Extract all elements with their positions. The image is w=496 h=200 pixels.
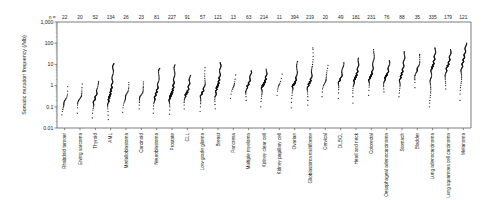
data-point [368,95,369,96]
data-point [383,88,384,89]
sample-size-label: 88 [399,15,405,20]
sample-size-label: 57 [200,15,206,20]
data-point [261,98,262,99]
data-point [97,85,98,86]
data-point [429,100,430,101]
data-point [313,56,314,57]
data-point [307,105,308,106]
sample-size-prefix: n = [49,15,56,20]
data-point [307,90,308,91]
data-point [234,81,235,82]
x-axis-category-label: Glioblastoma multiforme [308,133,313,184]
data-point [231,90,232,91]
data-point [326,76,327,77]
data-point [352,102,353,103]
data-point [153,103,154,104]
data-point [327,65,328,66]
x-axis-category-label: Head and neck [354,132,359,164]
data-point [292,92,293,93]
data-point [399,90,400,91]
data-point [61,114,62,115]
data-point [153,113,154,114]
data-point [383,83,384,84]
data-point [291,98,292,99]
sample-size-label: 20 [323,15,329,20]
data-point [108,119,109,120]
data-point [153,102,154,103]
data-point [460,83,461,84]
x-axis-category-label: Breast [216,132,221,146]
data-point [128,90,129,91]
data-point [214,104,215,105]
data-point [461,81,462,82]
data-point [369,86,370,87]
x-axis-category-label: Kidney clear cell [262,133,267,167]
data-point [184,105,185,106]
data-point [460,90,461,91]
data-point [82,83,83,84]
data-point [338,92,339,93]
x-axis-category-label: Bladder [415,133,420,150]
data-point [184,102,185,103]
data-point [67,86,68,87]
data-point [139,105,140,106]
data-point [77,103,78,104]
sample-size-label: 179 [444,15,452,20]
x-axis-category-label: Medulloblastoma [124,133,129,169]
data-point [327,68,328,69]
data-point [296,67,297,68]
data-point [312,49,313,50]
x-axis-category-label: Cervical [323,133,328,150]
data-point [113,63,114,64]
data-point [373,51,374,52]
data-point [352,92,353,93]
data-point [383,91,384,92]
sample-size-label: 63 [246,15,252,20]
sample-size-label: 22 [62,15,68,20]
data-point [200,103,201,104]
data-point [322,88,323,89]
data-point [81,91,82,92]
data-point [279,83,280,84]
data-point [77,102,78,103]
x-axis-category-label: AML [108,133,113,143]
data-point [429,102,430,103]
data-point [251,70,252,71]
data-point [461,77,462,78]
data-point [190,75,191,76]
sample-size-label: 11 [277,15,282,20]
x-axis-category-label: Melanoma [461,133,466,155]
data-point [204,73,205,74]
data-point [326,74,327,75]
data-point [138,108,139,109]
data-point [234,84,235,85]
data-point [159,68,160,69]
data-point [358,57,359,58]
data-point [280,81,281,82]
data-point [343,62,344,63]
x-axis-category-label: Ewing sarcoma [78,133,83,165]
data-point [352,90,353,91]
data-point [276,95,277,96]
data-point [466,43,467,44]
data-point [123,105,124,106]
data-point [98,81,99,82]
y-tick-label: 1 [51,82,54,88]
data-point [419,61,420,62]
data-point [128,82,129,83]
x-axis-category-label: Low-grade glioma [200,133,205,171]
x-axis-category-label: Colorectal [369,133,374,154]
data-point [158,81,159,82]
data-point [220,62,221,63]
data-point [77,107,78,108]
data-point [139,99,140,100]
data-point [430,89,431,90]
data-point [169,106,170,107]
data-point [66,96,67,97]
data-point [389,60,390,61]
data-point [214,101,215,102]
data-point [312,47,313,48]
data-point [122,112,123,113]
sample-size-label: 76 [384,15,390,20]
x-axis-category-label: Stomach [400,133,405,152]
